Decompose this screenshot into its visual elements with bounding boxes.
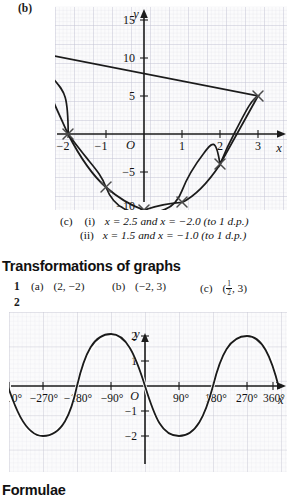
answer-1a-label: (a): [31, 280, 44, 292]
answer-1a-value: (2, −2): [53, 280, 84, 292]
answers-page: (b): [0, 0, 287, 504]
graph-parabola-curve-layer: [55, 6, 287, 210]
answer-ci-roman: (i): [84, 215, 95, 227]
marker-x-3: [253, 91, 263, 101]
marker-x--1: [101, 182, 111, 192]
marker-x--2: [63, 129, 73, 139]
marker-x-2: [215, 159, 225, 169]
answer-1b: (b) (−2, 3): [112, 280, 166, 292]
heading-transformations-of-graphs: Transformations of graphs: [2, 258, 181, 274]
answer-line-cii: (ii) x = 1.5 and x = −1.0 (to 1 d.p.): [0, 228, 287, 242]
sine-curve-final: [9, 334, 279, 436]
answer-line-ci: (c) (i) x = 2.5 and x = −2.0 (to 1 d.p.): [0, 214, 287, 228]
parabola-curve-accurate: [55, 50, 258, 210]
answer-1c-label: (c): [200, 282, 213, 294]
answer-1c-value-rest: , 3): [232, 282, 247, 294]
answer-1b-label: (b): [112, 280, 125, 292]
graph-parabola: −3 −2 −1 1 2 3 15 10 5 −5 −10 O x y: [55, 6, 287, 210]
question-number-1: 1: [14, 280, 20, 292]
answer-cii-roman: (ii): [80, 229, 94, 241]
parabola-data-markers: [55, 45, 263, 210]
answer-cii-text: x = 1.5 and x = −1.0 (to 1 d.p.): [103, 229, 247, 241]
question-number-2: 2: [14, 296, 20, 308]
answer-1b-value: (−2, 3): [135, 280, 166, 292]
answer-1a: (a) (2, −2): [31, 280, 84, 292]
graph-sine: −360° −270° −180° −90° 90° 180° 270° 360…: [9, 312, 287, 472]
sine-curve-accurate: [9, 336, 277, 436]
answer-1c: (c) (12, 3): [200, 280, 247, 297]
answer-c-part-label: (c): [60, 214, 73, 228]
graph-sine-curve-layer: [9, 312, 287, 472]
heading-formulae: Formulae: [2, 482, 66, 498]
answers-part-c: (c) (i) x = 2.5 and x = −2.0 (to 1 d.p.)…: [0, 214, 287, 242]
answer-ci-text: x = 2.5 and x = −2.0 (to 1 d.p.): [105, 215, 249, 227]
part-b-label: (b): [18, 2, 32, 14]
